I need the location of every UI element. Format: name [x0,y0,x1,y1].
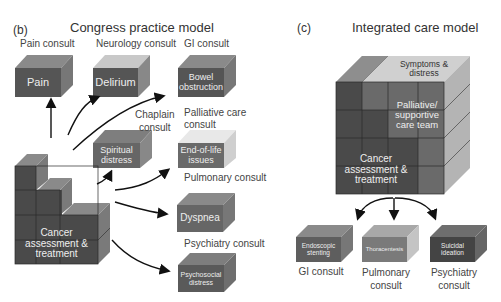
gi-consult-label: GI consult [184,38,229,49]
palliative-team-text: Palliative/ supportive care team [386,95,448,135]
psychiatry-consult-c-label: Psychiatry consult [428,266,480,292]
cancer-core-b-text: Cancer assessment & treatment [15,226,98,262]
pain-consult-label: Pain consult [20,38,74,49]
panel-b-title: Congress practice model [70,20,214,35]
cancer-core-c-text: Cancer assessment & treatment [336,150,416,190]
symptoms-distress-text: Symptoms & distress [386,58,462,80]
arrows-c [358,198,435,218]
delirium-box-text: Delirium [93,68,138,97]
neurology-consult-label: Neurology consult [96,38,176,49]
dyspnea-box-text: Dyspnea [177,205,223,232]
pulmonary-consult-label: Pulmonary consult [184,172,266,183]
psychosocial-box-text: Psychosocial distress [178,265,224,292]
panel-c-title: Integrated care model [352,20,478,35]
panel-b-letter: (b) [13,23,28,37]
end-of-life-box-text: End-of-life issues [178,143,224,168]
pain-box-text: Pain [15,68,61,97]
suicidal-box-text: Suicidal ideation [430,237,475,262]
psychiatry-consult-label: Psychiatry consult [184,238,265,249]
chaplain-consult-label: Chaplain consult [135,108,174,134]
spiritual-box-text: Spiritual distress [93,143,140,168]
palliative-consult-label: Palliative care consult [184,107,246,131]
pulmonary-consult-c-label: Pulmonary consult [360,266,412,292]
panel-c-letter: (c) [297,21,311,35]
endoscopic-box-text: Endoscopic stenting [296,237,341,262]
thoracentesis-box-text: Thoracentesis [362,237,407,262]
bowel-box-text: Bowel obstruction [178,68,224,97]
gi-consult-c-label: GI consult [296,266,346,277]
